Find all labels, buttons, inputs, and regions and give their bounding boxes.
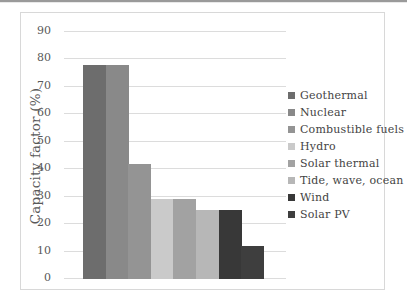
legend-swatch-tide-wave-ocean [288,177,295,184]
bar-hydro [151,199,174,279]
bar-tide-wave-ocean [196,210,219,279]
gridline-90 [64,31,286,32]
legend-label-solar-thermal: Solar thermal [300,157,379,170]
legend-item-solar-thermal: Solar thermal [288,155,404,172]
y-axis-tick-labels: 9080706050403020100 [21,31,51,279]
y-tick-label-10: 10 [21,244,51,258]
y-tick-label-70: 70 [21,79,51,93]
legend-label-combustible-fuels: Combustible fuels [300,123,404,136]
y-tick-label-30: 30 [21,189,51,203]
gridline-80 [64,58,286,59]
legend-swatch-hydro [288,143,295,150]
y-tick-label-50: 50 [21,134,51,148]
legend-label-tide-wave-ocean: Tide, wave, ocean [300,174,403,187]
legend: GeothermalNuclearCombustible fuelsHydroS… [288,87,404,223]
chart-frame: Capacity factor (%) 9080706050403020100 … [20,12,385,290]
legend-swatch-solar-thermal [288,160,295,167]
legend-item-nuclear: Nuclear [288,104,404,121]
y-tick-label-80: 80 [21,51,51,65]
legend-item-tide-wave-ocean: Tide, wave, ocean [288,172,404,189]
bar-nuclear [106,65,129,279]
legend-swatch-wind [288,194,295,201]
legend-label-geothermal: Geothermal [300,89,368,102]
y-tick-label-20: 20 [21,216,51,230]
y-tick-label-90: 90 [21,24,51,38]
legend-swatch-nuclear [288,109,295,116]
legend-label-wind: Wind [300,191,330,204]
plot-area [64,31,286,279]
legend-swatch-combustible-fuels [288,126,295,133]
y-tick-label-40: 40 [21,161,51,175]
y-tick-label-60: 60 [21,106,51,120]
legend-swatch-geothermal [288,92,295,99]
bar-combustible-fuels [128,164,151,279]
bar-wind [219,210,242,279]
legend-item-solar-pv: Solar PV [288,206,404,223]
legend-label-nuclear: Nuclear [300,106,346,119]
bar-solar-pv [241,246,264,279]
legend-swatch-solar-pv [288,211,295,218]
bar-solar-thermal [173,199,196,279]
legend-label-hydro: Hydro [300,140,336,153]
bar-geothermal [83,65,106,279]
y-tick-label-0: 0 [21,271,51,285]
legend-item-wind: Wind [288,189,404,206]
chart-screenshot: Capacity factor (%) 9080706050403020100 … [0,0,407,307]
legend-label-solar-pv: Solar PV [300,208,350,221]
legend-item-geothermal: Geothermal [288,87,404,104]
legend-item-hydro: Hydro [288,138,404,155]
top-divider [0,0,407,3]
legend-item-combustible-fuels: Combustible fuels [288,121,404,138]
